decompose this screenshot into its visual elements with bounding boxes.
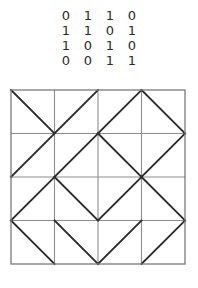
matrix-cell: 1 [121, 23, 143, 38]
matrix-cell: 1 [77, 8, 99, 23]
matrix-cell: 1 [121, 53, 143, 68]
matrix-cell: 0 [121, 8, 143, 23]
diagonal-slash [98, 177, 142, 221]
diagonal-backslash [55, 221, 99, 265]
diagonal-backslash [55, 177, 99, 221]
matrix-cell: 1 [99, 8, 121, 23]
diagonal-backslash [11, 221, 55, 265]
diagonal-backslash [98, 134, 142, 178]
matrix-row: 1 1 0 1 [0, 23, 198, 38]
diagonal-backslash [142, 90, 186, 134]
matrix-cell: 0 [99, 23, 121, 38]
matrix-cell: 0 [121, 38, 143, 53]
matrix-cell: 0 [55, 53, 77, 68]
diagonal-slash [142, 221, 186, 265]
matrix-cell: 0 [77, 38, 99, 53]
diagonal-slash [11, 177, 55, 221]
matrix-cell: 0 [77, 53, 99, 68]
diagonal-slash [142, 134, 186, 178]
diagonal-slash [55, 90, 99, 134]
diagram-container [9, 88, 189, 272]
diagonal-backslash [142, 177, 186, 221]
matrix-row: 0 1 1 0 [0, 8, 198, 23]
diagonal-slash [98, 221, 142, 265]
diagonal-tile-grid [9, 88, 189, 272]
matrix-cell: 1 [55, 23, 77, 38]
binary-matrix: 0 1 1 0 1 1 0 1 1 0 1 0 0 0 1 1 [0, 8, 198, 68]
matrix-cell: 1 [99, 53, 121, 68]
matrix-cell: 1 [99, 38, 121, 53]
matrix-cell: 0 [55, 8, 77, 23]
diagonal-slash [11, 134, 55, 178]
matrix-row: 1 0 1 0 [0, 38, 198, 53]
diagonal-slash [55, 134, 99, 178]
matrix-row: 0 0 1 1 [0, 53, 198, 68]
diagonal-backslash [11, 90, 55, 134]
matrix-cell: 1 [55, 38, 77, 53]
matrix-cell: 1 [77, 23, 99, 38]
diagonal-slash [98, 90, 142, 134]
